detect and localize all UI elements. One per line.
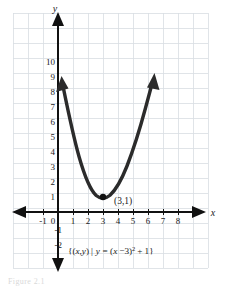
x-tick-4: 4 — [116, 216, 121, 226]
x-tick-7: 7 — [161, 216, 166, 226]
y-tick-2: 2 — [51, 177, 56, 187]
x-tick-5: 5 — [131, 216, 136, 226]
x-tick-minus-1: -1 — [39, 216, 47, 226]
vertex-point — [100, 194, 106, 200]
svg-text:{(x,y)|y=(x−3)2+1}: {(x,y)|y=(x−3)2+1} — [68, 245, 154, 257]
parabola-figure: y x 10 9 8 7 6 5 4 3 2 1 -1 -2 -1 0 1 2 … — [0, 0, 228, 290]
y-tick-minus-1: -1 — [55, 225, 63, 235]
y-tick-1: 1 — [51, 192, 56, 202]
y-tick-8: 8 — [51, 87, 56, 97]
y-tick-7: 7 — [51, 102, 56, 112]
set-notation-close-vars: ) — [86, 246, 89, 256]
y-axis-label: y — [52, 3, 58, 14]
y-tick-4: 4 — [51, 147, 56, 157]
y-tick-6: 6 — [51, 117, 56, 127]
y-tick-5: 5 — [51, 132, 56, 142]
y-tick-10: 10 — [46, 57, 56, 67]
graph-canvas: y x 10 9 8 7 6 5 4 3 2 1 -1 -2 -1 0 1 2 … — [0, 0, 228, 290]
set-notation-plus: + — [137, 246, 142, 256]
x-tick-2: 2 — [86, 216, 91, 226]
x-tick-0: 0 — [51, 216, 56, 226]
set-notation-eq: = — [102, 246, 107, 256]
set-notation-rhs-minus: −3 — [119, 246, 129, 256]
set-notation-open: {( — [68, 246, 75, 256]
figure-caption: Figure 2.1 — [8, 277, 128, 288]
set-notation-end: } — [149, 246, 153, 256]
x-tick-8: 8 — [176, 216, 181, 226]
y-tick-3: 3 — [51, 162, 56, 172]
set-notation-exponent: 2 — [132, 245, 135, 252]
set-notation-bar: | — [91, 246, 93, 256]
x-tick-3: 3 — [101, 216, 106, 226]
set-notation: {(x,y)|y=(x−3)2+1} — [68, 245, 154, 257]
x-axis-label: x — [210, 207, 216, 218]
x-tick-1: 1 — [71, 216, 76, 226]
x-tick-6: 6 — [146, 216, 151, 226]
vertex-annotation: (3,1) — [114, 196, 132, 207]
y-tick-minus-2: -2 — [55, 240, 63, 250]
y-tick-9: 9 — [51, 72, 56, 82]
